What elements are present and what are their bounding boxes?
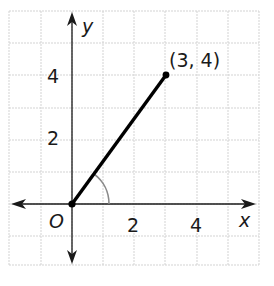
coordinate-plane: y x O 4 2 2 4 (3, 4) [0,0,274,286]
x-tick-2: 2 [127,214,139,236]
x-axis-label: x [238,209,251,231]
point-label: (3, 4) [169,49,220,71]
endpoint [163,72,170,79]
y-axis [67,12,77,264]
origin-point [68,200,75,207]
y-tick-2: 2 [47,127,59,149]
origin-label: O [49,210,64,232]
y-axis-label: y [81,15,94,37]
x-tick-4: 4 [190,214,202,236]
y-tick-4: 4 [47,65,59,87]
angle-arc [94,174,109,204]
